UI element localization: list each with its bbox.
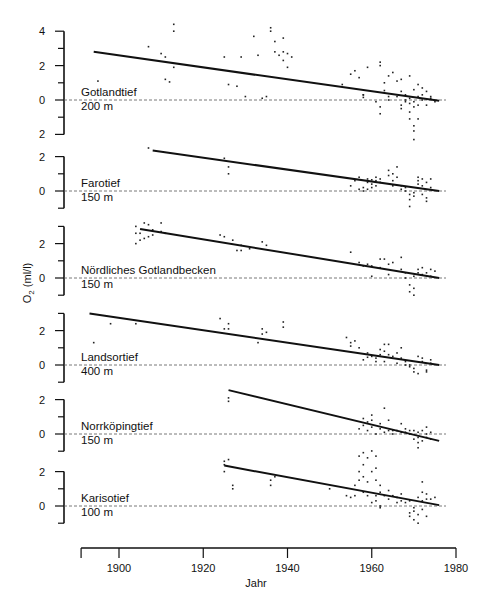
data-point <box>396 80 398 82</box>
data-point <box>384 361 386 363</box>
data-point <box>375 433 377 435</box>
data-point <box>329 488 331 490</box>
y-tick-label: 2 <box>39 151 45 163</box>
data-point <box>400 108 402 110</box>
data-point <box>379 106 381 108</box>
data-point <box>232 485 234 487</box>
data-point <box>417 522 419 524</box>
data-point <box>379 65 381 67</box>
data-point <box>430 359 432 361</box>
data-point <box>135 232 137 234</box>
data-point <box>367 188 369 190</box>
data-point <box>434 270 436 272</box>
data-point <box>388 263 390 265</box>
data-point <box>426 182 428 184</box>
data-point <box>346 495 348 497</box>
data-point <box>371 179 373 181</box>
data-point <box>417 84 419 86</box>
x-tick-label: 1900 <box>107 562 131 574</box>
data-point <box>253 36 255 38</box>
data-point <box>396 352 398 354</box>
data-point <box>350 497 352 499</box>
data-point <box>375 455 377 457</box>
data-point <box>363 425 365 427</box>
data-point <box>400 188 402 190</box>
data-point <box>261 333 263 335</box>
data-point <box>371 502 373 504</box>
data-point <box>409 111 411 113</box>
data-point <box>236 85 238 87</box>
data-point <box>388 344 390 346</box>
data-point <box>278 54 280 56</box>
data-point <box>422 178 424 180</box>
data-point <box>148 224 150 226</box>
data-point <box>371 419 373 421</box>
data-point <box>224 158 226 160</box>
data-point <box>367 481 369 483</box>
data-point <box>379 428 381 430</box>
station-depth-label: 150 m <box>81 278 113 290</box>
station-depth-label: 200 m <box>81 100 113 112</box>
data-point <box>350 251 352 253</box>
data-point <box>430 187 432 189</box>
data-point <box>413 510 415 512</box>
data-point <box>367 430 369 432</box>
data-point <box>358 188 360 190</box>
data-point <box>358 77 360 79</box>
y-tick-label: 2 <box>39 128 45 140</box>
data-point <box>363 359 365 361</box>
data-point <box>392 72 394 74</box>
y-axis-title-unit: (ml/l) <box>21 263 33 291</box>
data-point <box>139 232 141 234</box>
station-name-label: Gotlandtief <box>81 86 137 98</box>
data-point <box>165 56 167 58</box>
data-point <box>363 418 365 420</box>
data-point <box>417 447 419 449</box>
data-point <box>224 460 226 462</box>
data-point <box>413 507 415 509</box>
y-tick-label: 2 <box>39 60 45 72</box>
data-point <box>417 497 419 499</box>
data-point <box>405 101 407 103</box>
station-name-label: Nördliches Gotlandbecken <box>81 264 216 276</box>
data-point <box>426 371 428 373</box>
data-point <box>358 347 360 349</box>
data-point <box>228 323 230 325</box>
data-point <box>417 442 419 444</box>
data-point <box>282 321 284 323</box>
data-point <box>232 488 234 490</box>
data-point <box>396 362 398 364</box>
data-point <box>270 485 272 487</box>
data-point <box>430 96 432 98</box>
data-point <box>173 24 175 26</box>
data-point <box>110 323 112 325</box>
data-point <box>422 87 424 89</box>
x-tick-label: 1940 <box>275 562 299 574</box>
data-point <box>245 96 247 98</box>
data-point <box>270 479 272 481</box>
data-point <box>413 294 415 296</box>
data-point <box>388 430 390 432</box>
data-point <box>400 269 402 271</box>
trend-line <box>153 151 439 191</box>
data-point <box>228 173 230 175</box>
data-point <box>417 104 419 106</box>
data-point <box>148 236 150 238</box>
y-tick-label: 0 <box>39 185 45 197</box>
panel-4: 20Landsortief400 m <box>39 313 446 382</box>
data-point <box>363 187 365 189</box>
data-point <box>409 206 411 208</box>
data-point <box>367 263 369 265</box>
trend-line <box>94 52 439 101</box>
data-point <box>358 176 360 178</box>
data-point <box>173 30 175 32</box>
data-point <box>160 222 162 224</box>
data-point <box>422 430 424 432</box>
data-point <box>405 428 407 430</box>
data-point <box>392 180 394 182</box>
data-point <box>282 60 284 62</box>
data-point <box>413 89 415 91</box>
data-point <box>261 328 263 330</box>
data-point <box>379 507 381 509</box>
data-point <box>422 440 424 442</box>
